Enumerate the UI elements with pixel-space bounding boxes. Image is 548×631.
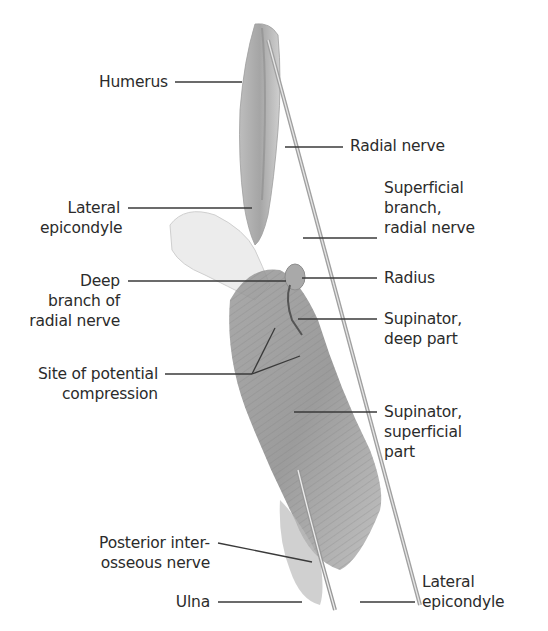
label-supinator-superficial: Supinator, superficial part <box>384 402 462 462</box>
label-lateral-epicondyle-top: Lateral epicondyle <box>40 198 120 238</box>
label-ulna: Ulna <box>150 592 210 612</box>
radius-head <box>285 264 305 290</box>
label-superficial-branch: Superficial branch, radial nerve <box>384 178 475 238</box>
label-supinator-deep: Supinator, deep part <box>384 309 462 349</box>
label-radial-nerve: Radial nerve <box>350 136 445 156</box>
label-deep-branch: Deep branch of radial nerve <box>20 271 120 331</box>
label-site-compression: Site of potential compression <box>10 364 158 404</box>
label-lateral-epicondyle-bottom: Lateral epicondyle <box>422 572 504 612</box>
label-posterior-interosseous: Posterior inter- osseous nerve <box>70 533 210 573</box>
label-humerus: Humerus <box>88 72 168 92</box>
label-radius: Radius <box>384 268 435 288</box>
anatomy-figure: Humerus Radial nerve Superficial branch,… <box>0 0 548 631</box>
